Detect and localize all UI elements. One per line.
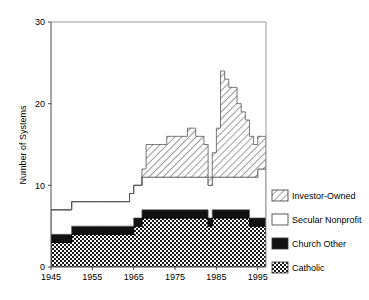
legend-swatch-white [272, 214, 288, 225]
y-axis-tick-label: 20 [35, 99, 45, 109]
legend-label: Secular Nonprofit [292, 215, 362, 225]
x-axis-tick-label: 1995 [248, 272, 268, 282]
y-axis-tick-label: 10 [35, 181, 45, 191]
stacked-area-chart: 0102030 194519551965197519851995 Number … [0, 0, 369, 300]
legend-label: Investor-Owned [292, 191, 356, 201]
legend-label: Catholic [292, 263, 325, 273]
chart-container: 0102030 194519551965197519851995 Number … [0, 0, 369, 300]
y-axis-title: Number of Systems [18, 105, 28, 185]
x-axis-ticks: 194519551965197519851995 [41, 267, 268, 282]
legend-label: Church Other [292, 239, 346, 249]
x-axis-tick-label: 1955 [82, 272, 102, 282]
legend-swatch-diagonal-hatch [272, 190, 288, 201]
chart-legend: Investor-OwnedSecular NonprofitChurch Ot… [272, 190, 362, 273]
y-axis-tick-label: 30 [35, 17, 45, 27]
legend-swatch-checker [272, 262, 288, 273]
y-axis-tick-label: 0 [40, 262, 45, 272]
x-axis-tick-label: 1965 [124, 272, 144, 282]
x-axis-tick-label: 1945 [41, 272, 61, 282]
y-axis-ticks: 0102030 [35, 17, 51, 272]
x-axis-tick-label: 1985 [206, 272, 226, 282]
legend-swatch-solid-black [272, 238, 288, 249]
x-axis-tick-label: 1975 [165, 272, 185, 282]
